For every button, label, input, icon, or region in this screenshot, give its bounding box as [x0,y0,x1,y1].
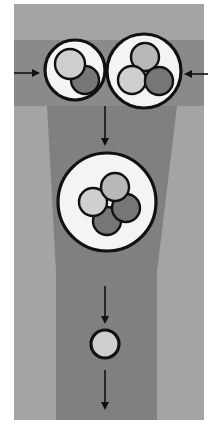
vesicle-large-right [107,34,181,108]
vesicle-fused-middle [58,153,156,251]
cargo-particle [118,66,146,94]
cargo-particle [55,49,85,79]
vesicle-membrane [91,330,119,358]
cargo-particle [145,67,173,95]
vesicle-fusion-diagram [0,0,211,426]
diagram-canvas [0,0,211,426]
cargo-particle [101,173,129,201]
vesicle-released-particle [91,330,119,358]
vesicle-small-left [45,40,105,100]
